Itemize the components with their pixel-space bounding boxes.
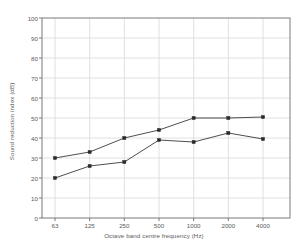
data-point-marker (192, 140, 195, 143)
data-point-marker (123, 160, 126, 163)
data-point-marker (88, 164, 91, 167)
y-tick-label: 80 (24, 55, 38, 62)
x-tick-label: 2000 (213, 222, 243, 229)
data-point-marker (53, 176, 56, 179)
data-point-marker (261, 115, 264, 118)
y-tick-label: 30 (24, 155, 38, 162)
y-tick-label: 50 (24, 115, 38, 122)
data-point-marker (53, 156, 56, 159)
y-axis-title: Sound reduction index (dB) (8, 57, 15, 187)
x-tick-label: 500 (144, 222, 174, 229)
y-tick-label: 100 (24, 15, 38, 22)
data-point-marker (88, 150, 91, 153)
y-tick-label: 70 (24, 75, 38, 82)
data-point-marker (157, 138, 160, 141)
data-point-marker (123, 136, 126, 139)
chart-plot-area (0, 0, 308, 250)
x-tick-label: 250 (109, 222, 139, 229)
data-point-marker (227, 116, 230, 119)
data-point-marker (157, 128, 160, 131)
x-tick-label: 4000 (248, 222, 278, 229)
data-point-marker (227, 131, 230, 134)
y-tick-label: 60 (24, 95, 38, 102)
data-point-marker (192, 116, 195, 119)
y-tick-label: 90 (24, 35, 38, 42)
x-tick-label: 1000 (179, 222, 209, 229)
y-axis-tick-labels: 0102030405060708090100 (22, 0, 38, 250)
y-tick-label: 40 (24, 135, 38, 142)
grid-layer (42, 18, 290, 218)
x-tick-label: 125 (75, 222, 105, 229)
x-axis-title: Octave band centre frequency (Hz) (0, 232, 308, 239)
chart-container: 0102030405060708090100 63125250500100020… (0, 0, 308, 250)
y-tick-label: 20 (24, 175, 38, 182)
y-tick-label: 0 (24, 215, 38, 222)
y-tick-label: 10 (24, 195, 38, 202)
data-point-marker (261, 137, 264, 140)
x-tick-label: 63 (40, 222, 70, 229)
